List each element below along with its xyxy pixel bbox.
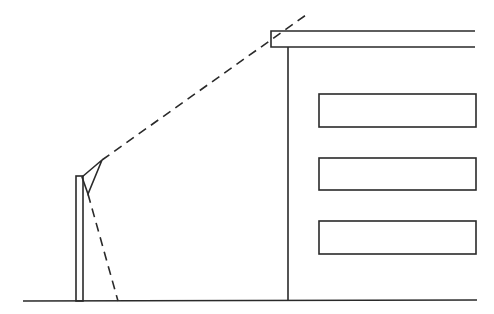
building-window-2: [319, 158, 476, 190]
building-roof: [271, 31, 475, 47]
view-line-upper: [102, 15, 306, 160]
view-line-lower: [88, 194, 118, 301]
camera-icon: [82, 160, 102, 194]
diagram-canvas: [0, 0, 494, 314]
camera-pole: [76, 176, 83, 301]
building-window-3: [319, 221, 476, 254]
ground-line: [23, 300, 477, 301]
building-window-1: [319, 94, 476, 127]
